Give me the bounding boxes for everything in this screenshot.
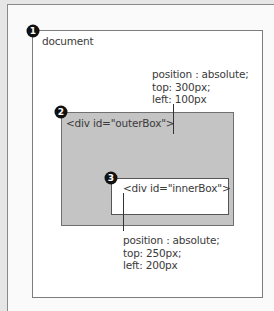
inner-callout-leader-line [123, 193, 124, 231]
outer-callout-line-3: left: 100px [152, 93, 248, 106]
inner-box-callout: position : absolute; top: 250px; left: 2… [123, 234, 219, 272]
inner-callout-line-1: position : absolute; [123, 234, 219, 247]
document-label: document [42, 35, 93, 48]
outer-box-callout: position : absolute; top: 300px; left: 1… [152, 68, 248, 106]
inner-callout-line-3: left: 200px [123, 259, 219, 272]
outer-callout-line-1: position : absolute; [152, 68, 248, 81]
outer-callout-line-2: top: 300px; [152, 81, 248, 94]
inner-callout-line-2: top: 250px; [123, 247, 219, 260]
outer-box-label: <div id="outerBox"> [66, 117, 174, 130]
badge-1-icon: 1 [27, 25, 40, 38]
inner-box-label: <div id="innerBox"> [123, 182, 231, 195]
badge-3-icon: 3 [105, 172, 118, 185]
